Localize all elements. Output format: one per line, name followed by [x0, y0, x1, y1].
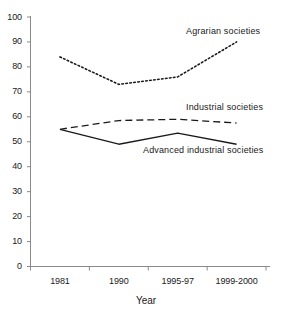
y-tick-label: 40: [0, 162, 22, 171]
series-lines: [60, 42, 237, 144]
y-tick-label: 80: [0, 62, 22, 71]
x-tick-label: 1995-97: [148, 277, 207, 286]
y-tick-label: 50: [0, 137, 22, 146]
series-label-industrial: Industrial societies: [186, 102, 263, 112]
y-tick-label: 10: [0, 237, 22, 246]
x-tick-label: 1981: [31, 277, 90, 286]
x-axis-title: Year: [0, 296, 292, 306]
x-axis-ticks: [31, 267, 267, 271]
x-tick-label: 1999-2000: [207, 277, 266, 286]
line-chart: 1009080706050403020100 198119901995-9719…: [0, 0, 292, 314]
y-tick-label: 0: [0, 262, 22, 271]
y-tick-label: 100: [0, 13, 22, 22]
series-label-advanced: Advanced industrial societies: [143, 145, 263, 155]
series-line: [60, 129, 237, 144]
y-tick-label: 60: [0, 112, 22, 121]
y-axis-ticks: [27, 17, 31, 267]
y-tick-label: 90: [0, 37, 22, 46]
plot-area: [0, 0, 292, 314]
y-tick-label: 20: [0, 212, 22, 221]
series-line: [60, 119, 237, 129]
y-tick-label: 70: [0, 87, 22, 96]
x-tick-label: 1990: [89, 277, 148, 286]
series-line: [60, 42, 237, 84]
series-label-agrarian: Agrarian societies: [186, 26, 260, 36]
y-tick-label: 30: [0, 187, 22, 196]
